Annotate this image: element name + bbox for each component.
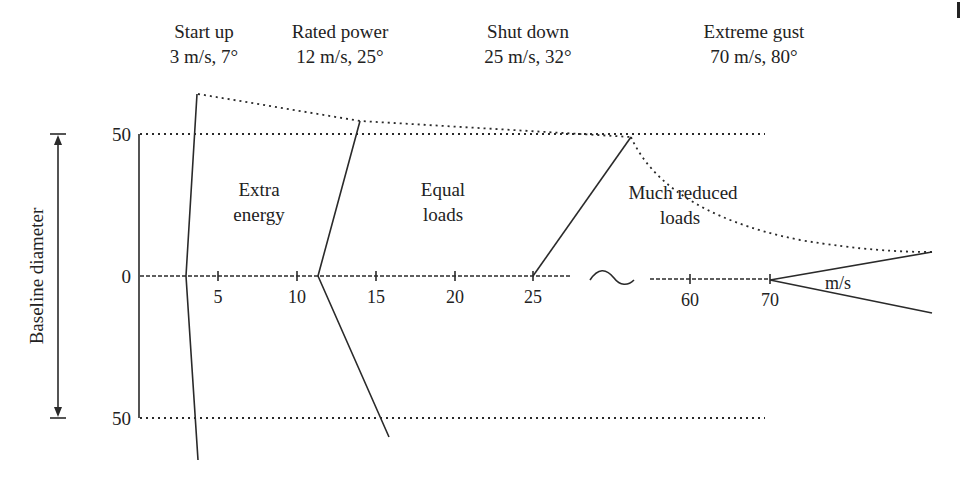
x-tick-5: 5 [214, 287, 223, 307]
axis-break-icon [590, 271, 634, 285]
region-much-reduced-line1: Much reduced [628, 182, 738, 203]
shut-down-blade-line [533, 137, 631, 276]
header-start-up-detail: 3 m/s, 7° [170, 46, 238, 67]
y-tick-zero: 0 [122, 266, 132, 287]
header-rated-power: Rated power 12 m/s, 25° [292, 21, 389, 67]
wind-turbine-operating-diagram: Start up 3 m/s, 7° Rated power 12 m/s, 2… [0, 0, 960, 482]
x-axis-unit-label: m/s [825, 273, 851, 293]
header-shut-down-title: Shut down [487, 21, 569, 42]
x-tick-15: 15 [367, 287, 385, 307]
region-much-reduced-loads: Much reduced loads [628, 182, 738, 228]
x-tick-20: 20 [446, 287, 464, 307]
x-tick-marks [218, 271, 770, 284]
region-extra-energy-line2: energy [233, 204, 285, 225]
header-extreme-gust-detail: 70 m/s, 80° [710, 46, 797, 67]
header-shut-down: Shut down 25 m/s, 32° [484, 21, 571, 67]
header-rated-power-title: Rated power [292, 21, 389, 42]
region-extra-energy-line1: Extra [238, 179, 280, 200]
header-extreme-gust-title: Extreme gust [704, 21, 806, 42]
header-shut-down-detail: 25 m/s, 32° [484, 46, 571, 67]
region-much-reduced-line2: loads [660, 207, 700, 228]
y-axis-label: Baseline diameter [26, 207, 47, 344]
header-start-up-title: Start up [174, 21, 234, 42]
region-equal-loads: Equal loads [421, 179, 465, 225]
rated-power-blade-line [318, 121, 389, 437]
header-extreme-gust: Extreme gust 70 m/s, 80° [704, 21, 806, 67]
x-tick-25: 25 [524, 287, 542, 307]
header-start-up: Start up 3 m/s, 7° [170, 21, 238, 67]
header-rated-power-detail: 12 m/s, 25° [296, 46, 383, 67]
region-extra-energy: Extra energy [233, 179, 285, 225]
tip-envelope-upper [198, 94, 631, 137]
y-tick-top-50: 50 [112, 124, 131, 145]
y-tick-bottom-50: 50 [112, 408, 131, 429]
x-tick-10: 10 [288, 287, 306, 307]
x-tick-70: 70 [761, 290, 779, 310]
start-up-blade-line [186, 94, 198, 460]
region-equal-loads-line1: Equal [421, 179, 465, 200]
x-tick-60: 60 [681, 290, 699, 310]
diameter-dimension-arrow-icon [50, 134, 66, 418]
region-equal-loads-line2: loads [423, 204, 463, 225]
